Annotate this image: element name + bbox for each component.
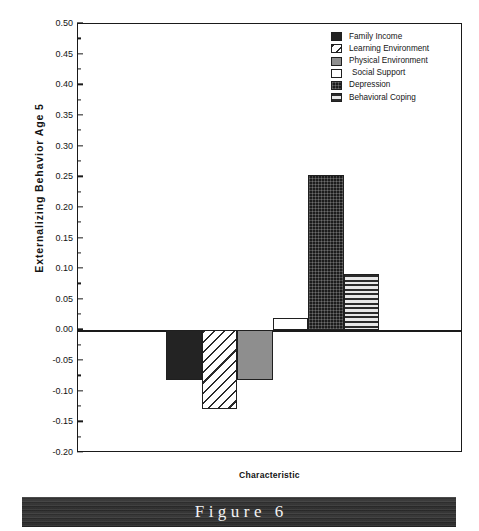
figure-caption-banner: Figure 6	[22, 497, 456, 527]
y-tick-mark-minor	[77, 283, 81, 284]
y-tick-label: 0.20	[29, 202, 73, 212]
y-tick-mark	[77, 176, 83, 177]
y-tick-mark	[77, 267, 83, 268]
y-tick-mark-minor	[77, 68, 81, 69]
figure-6: Externalizing Behavior Age 5 0.500.450.4…	[0, 0, 479, 531]
y-tick-mark	[77, 22, 83, 23]
y-tick-label: 0.10	[29, 263, 73, 273]
legend-item: Depression	[331, 80, 455, 92]
bar-physical-environment	[237, 330, 273, 380]
legend-item-label: Depression	[349, 81, 390, 89]
y-tick-label: 0.25	[29, 171, 73, 181]
legend-item-label: Behavioral Coping	[349, 94, 416, 102]
y-tick-mark-minor	[77, 222, 81, 223]
y-tick-mark	[77, 206, 83, 207]
y-tick-label: 0.45	[29, 49, 73, 59]
y-tick-mark	[77, 359, 83, 360]
y-tick-label: -0.15	[29, 416, 73, 426]
y-axis-tick-labels: 0.500.450.400.350.300.250.200.150.100.05…	[25, 0, 73, 531]
legend-swatch-icon	[331, 69, 342, 78]
y-tick-mark	[77, 298, 83, 299]
legend-swatch-icon	[331, 93, 342, 102]
y-tick-label: 0.30	[29, 141, 73, 151]
legend: Family IncomeLearning EnvironmentPhysica…	[331, 31, 455, 104]
y-tick-label: 0.05	[29, 294, 73, 304]
x-axis-title: Characteristic	[77, 470, 462, 480]
y-tick-mark	[77, 84, 83, 85]
y-tick-mark	[77, 114, 83, 115]
legend-swatch-icon	[331, 44, 342, 53]
y-tick-label: -0.20	[29, 447, 73, 457]
y-tick-mark-minor	[77, 191, 81, 192]
y-tick-label: -0.10	[29, 386, 73, 396]
y-tick-mark-minor	[77, 252, 81, 253]
legend-item-label: Family Income	[349, 33, 402, 41]
y-tick-mark-minor	[77, 405, 81, 406]
legend-item: Learning Environment	[331, 43, 455, 55]
y-tick-mark	[77, 53, 83, 54]
legend-item-label: Social Support	[352, 69, 405, 77]
bar-family-income	[166, 330, 202, 380]
bar-social-support	[273, 318, 309, 330]
legend-swatch-icon	[331, 57, 342, 66]
y-tick-label: 0.35	[29, 110, 73, 120]
legend-item-label: Physical Environment	[349, 57, 428, 65]
y-tick-mark	[77, 421, 83, 422]
y-tick-mark-minor	[77, 314, 81, 315]
y-tick-mark-minor	[77, 130, 81, 131]
legend-item: Social Support	[331, 68, 455, 80]
bar-depression	[308, 175, 344, 330]
y-tick-label: 0.40	[29, 79, 73, 89]
y-tick-mark-minor	[77, 99, 81, 100]
y-tick-label: 0.15	[29, 233, 73, 243]
legend-swatch-icon	[331, 81, 342, 90]
y-tick-mark	[77, 390, 83, 391]
y-tick-mark-minor	[77, 436, 81, 437]
figure-caption-text: Figure 6	[190, 502, 288, 522]
y-tick-mark-minor	[77, 344, 81, 345]
legend-item: Physical Environment	[331, 55, 455, 67]
y-tick-mark-minor	[77, 375, 81, 376]
legend-item: Family Income	[331, 31, 455, 43]
y-tick-mark-minor	[77, 38, 81, 39]
bar-learning-environment	[202, 330, 238, 409]
y-tick-label: 0.00	[29, 324, 73, 334]
y-tick-mark-minor	[77, 160, 81, 161]
y-tick-mark	[77, 237, 83, 238]
y-tick-label: -0.05	[29, 355, 73, 365]
y-tick-mark	[77, 329, 83, 330]
legend-item-label: Learning Environment	[349, 45, 429, 53]
y-tick-mark	[77, 451, 83, 452]
y-tick-mark	[77, 145, 83, 146]
bar-behavioral-coping	[344, 274, 380, 330]
legend-swatch-icon	[331, 32, 342, 41]
legend-item: Behavioral Coping	[331, 92, 455, 104]
y-tick-label: 0.50	[29, 18, 73, 28]
